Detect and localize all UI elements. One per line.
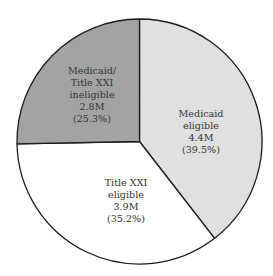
label-medicaid-eligible-percent: (39.5%) [182,144,220,155]
label-title-xxi-line-1: Title XXI [105,177,148,188]
label-ineligible-line-3: ineligible [69,89,114,100]
label-medicaid-eligible-line-2: eligible [183,120,219,131]
label-medicaid-eligible-value: 4.4M [188,132,213,143]
label-ineligible-line-1: Medicaid/ [68,65,117,76]
label-medicaid-eligible-line-1: Medicaid [178,108,223,119]
label-ineligible-line-2: Title XXI [71,77,114,88]
label-title-xxi-line-2: eligible [108,189,144,200]
label-ineligible-value: 2.8M [79,101,104,112]
label-title-xxi-percent: (35.2%) [107,213,145,224]
pie-chart: Medicaid/ Title XXI ineligible 2.8M (25.… [0,0,273,276]
label-ineligible-percent: (25.3%) [73,113,111,124]
label-ineligible: Medicaid/ Title XXI ineligible 2.8M (25.… [68,65,117,124]
label-title-xxi-value: 3.9M [113,201,138,212]
pie-slices [17,19,262,264]
